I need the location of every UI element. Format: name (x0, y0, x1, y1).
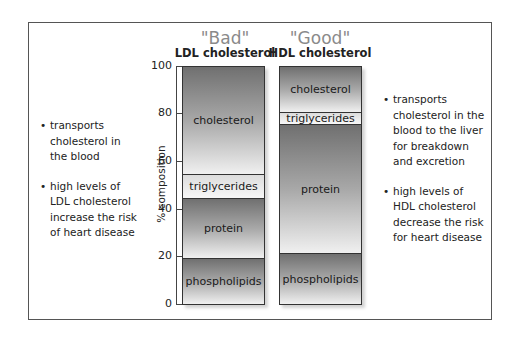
hdl-seg-phospholipids: phospholipids (280, 253, 361, 304)
y-tick-label-20: 20 (150, 249, 172, 262)
hdl-good-tag: "Good" (270, 28, 370, 48)
hdl-label-phospholipids: phospholipids (283, 273, 359, 286)
ldl-label-phospholipids: phospholipids (186, 275, 262, 288)
hdl-bar: cholesterol triglycerides protein phosph… (279, 66, 362, 305)
ldl-label-cholesterol: cholesterol (193, 114, 253, 127)
ldl-seg-protein: protein (183, 198, 264, 258)
ldl-note-1: transports cholesterol in the blood (40, 118, 140, 165)
hdl-label-protein: protein (301, 183, 340, 196)
ldl-bar: cholesterol triglycerides protein phosph… (182, 66, 265, 305)
y-tick-label-60: 60 (150, 154, 172, 167)
ldl-notes: transports cholesterol in the blood high… (40, 118, 140, 255)
ldl-note-2: high levels of LDL cholesterol increase … (40, 179, 140, 241)
y-tick-label-100: 100 (150, 59, 172, 72)
hdl-seg-cholesterol: cholesterol (280, 67, 361, 112)
hdl-label-cholesterol: cholesterol (290, 83, 350, 96)
hdl-notes: transports cholesterol in the blood to t… (383, 92, 488, 260)
hdl-note-1: transports cholesterol in the blood to t… (383, 92, 488, 170)
ldl-bad-tag: "Bad" (175, 28, 275, 48)
y-tick-label-0: 0 (150, 297, 172, 310)
hdl-seg-triglycerides: triglycerides (280, 112, 361, 124)
hdl-note-2: high levels of HDL cholesterol decrease … (383, 184, 488, 246)
ldl-label-triglycerides: triglycerides (189, 180, 257, 193)
hdl-title: HDL cholesterol (265, 46, 375, 60)
hdl-label-triglycerides: triglycerides (286, 114, 354, 124)
ldl-seg-phospholipids: phospholipids (183, 258, 264, 304)
ldl-label-protein: protein (204, 222, 243, 235)
hdl-seg-protein: protein (280, 124, 361, 253)
y-tick-label-40: 40 (150, 202, 172, 215)
y-tick-label-80: 80 (150, 106, 172, 119)
y-axis-line (176, 66, 177, 305)
ldl-seg-cholesterol: cholesterol (183, 67, 264, 174)
ldl-title: LDL cholesterol (170, 46, 280, 60)
ldl-seg-triglycerides: triglycerides (183, 174, 264, 198)
